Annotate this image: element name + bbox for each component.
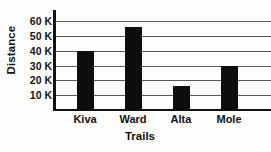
x-axis-tick-label-mole: Mole: [205, 113, 253, 125]
y-axis-tick-label: 60 K: [20, 15, 52, 27]
bar-kiva: [77, 51, 94, 110]
y-axis-tick-label: 30 K: [20, 60, 52, 72]
bar-mole: [221, 66, 238, 110]
x-axis-tick-label-ward: Ward: [109, 113, 157, 125]
bars-layer: [55, 14, 271, 110]
y-axis-tick-labels: 10 K20 K30 K40 K50 K60 K: [20, 14, 52, 110]
x-axis-tick-label-alta: Alta: [157, 113, 205, 125]
y-axis-tick-label: 40 K: [20, 45, 52, 57]
y-axis-tick-label: 50 K: [20, 30, 52, 42]
bar-ward: [125, 27, 142, 110]
x-axis-tick-label-kiva: Kiva: [61, 113, 109, 125]
y-axis-tick-label: 20 K: [20, 74, 52, 86]
x-axis-tick-labels: KivaWardAltaMole: [55, 113, 271, 128]
bar-chart-figure: Distance 10 K20 K30 K40 K50 K60 K KivaWa…: [0, 0, 271, 152]
y-axis-tick-label: 10 K: [20, 89, 52, 101]
y-axis-title: Distance: [5, 18, 17, 82]
x-axis-title: Trails: [55, 130, 225, 142]
bar-alta: [173, 86, 190, 110]
